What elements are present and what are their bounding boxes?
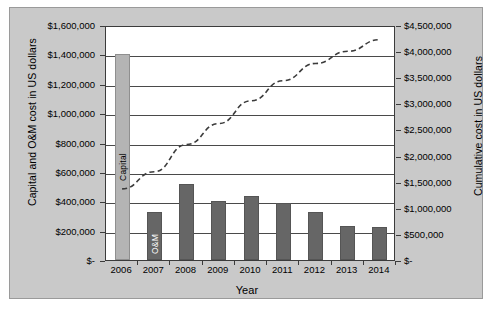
cumulative-line-series: [106, 27, 396, 262]
plot-area: CapitalO&M: [105, 26, 395, 261]
y-axis-left-tick-label: $600,000: [55, 168, 95, 178]
y-axis-right-tickmark: [396, 104, 401, 105]
y-axis-left-tick-label: $1,000,000: [47, 109, 95, 119]
y-axis-left-tick-label: $1,400,000: [47, 50, 95, 60]
y-axis-right-tick-label: $4,500,000: [404, 21, 452, 31]
y-axis-right-tickmark: [396, 209, 401, 210]
y-axis-right-tickmark: [396, 52, 401, 53]
y-axis-right-tickmark: [396, 78, 401, 79]
y-axis-right-tick-label: $1,000,000: [404, 204, 452, 214]
chart-plot-frame: Capital and O&M cost in US dollars Cumul…: [9, 7, 483, 299]
y-axis-right-tick-label: $3,500,000: [404, 73, 452, 83]
y-axis-left-tickmark: [100, 261, 105, 262]
y-axis-right-tick-label: $-: [404, 256, 412, 266]
y-axis-left-tick-label: $200,000: [55, 227, 95, 237]
y-axis-right-tick-label: $2,000,000: [404, 152, 452, 162]
y-axis-right-tickmark: [396, 261, 401, 262]
y-axis-right-tickmark: [396, 157, 401, 158]
y-axis-left-tick-label: $1,600,000: [47, 21, 95, 31]
cumulative-cost-line: [122, 40, 380, 189]
y-axis-left-title: Capital and O&M cost in US dollars: [26, 46, 38, 206]
y-axis-right-tickmark: [396, 183, 401, 184]
x-axis-title: Year: [10, 284, 484, 296]
y-axis-right-tickmark: [396, 130, 401, 131]
y-axis-right-tick-label: $1,500,000: [404, 178, 452, 188]
y-axis-right-tick-label: $3,000,000: [404, 99, 452, 109]
y-axis-left-tick-label: $400,000: [55, 197, 95, 207]
y-axis-right-tick-label: $500,000: [404, 230, 444, 240]
y-axis-right-tickmark: [396, 235, 401, 236]
y-axis-right-tick-label: $2,500,000: [404, 125, 452, 135]
chart-container: Capital and O&M cost in US dollars Cumul…: [0, 0, 492, 312]
y-axis-left-tick-label: $800,000: [55, 139, 95, 149]
y-axis-right-title: Cumulative cost in US dollars: [472, 46, 484, 206]
y-axis-left-tick-label: $1,200,000: [47, 80, 95, 90]
y-axis-right-tickmark: [396, 26, 401, 27]
x-axis-label: 2014: [359, 264, 399, 275]
y-axis-right-tick-label: $4,000,000: [404, 47, 452, 57]
y-axis-left-tick-label: $-: [87, 256, 95, 266]
